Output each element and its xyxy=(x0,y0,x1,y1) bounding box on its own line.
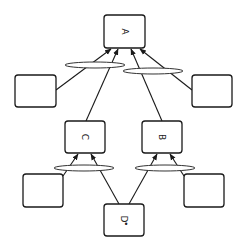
node-a[interactable]: A xyxy=(104,15,145,48)
junction-c xyxy=(54,165,114,171)
node-b-label: B xyxy=(157,134,167,140)
edge-b-to-a xyxy=(131,49,162,121)
node-d[interactable]: D • xyxy=(104,204,144,236)
node-b[interactable]: B xyxy=(142,121,182,153)
junction-b xyxy=(135,165,195,171)
node-left-bottom[interactable] xyxy=(23,174,63,207)
node-d-marker: • xyxy=(124,220,129,229)
diagram-canvas: A C B D • xyxy=(0,0,246,251)
node-c-label: C xyxy=(80,134,90,140)
node-a-label: A xyxy=(120,28,130,35)
junction-a-left xyxy=(65,62,125,68)
node-left-top[interactable] xyxy=(15,75,56,107)
edge-c-to-a xyxy=(86,49,118,121)
node-right-top[interactable] xyxy=(192,75,232,107)
junction-a-right xyxy=(123,68,183,74)
edge-d-to-b xyxy=(129,154,157,204)
edge-d-to-c xyxy=(91,154,119,204)
node-right-bottom[interactable] xyxy=(184,174,224,207)
node-c[interactable]: C xyxy=(65,121,105,153)
